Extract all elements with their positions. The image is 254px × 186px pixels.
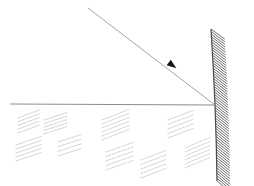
scribble-stroke — [185, 167, 187, 168]
scribble-stroke — [19, 151, 21, 152]
scribble-stroke — [112, 158, 114, 159]
scribble-cluster — [16, 137, 41, 161]
scribble-stroke — [191, 120, 193, 121]
scribble-stroke — [174, 117, 176, 118]
scribble-stroke — [22, 142, 24, 143]
scribble-stroke — [141, 164, 143, 165]
scribble-stroke — [194, 160, 196, 161]
scribble-stroke — [124, 127, 126, 128]
scribble-stroke — [185, 159, 187, 160]
scribble-stroke — [23, 131, 25, 132]
scribble-stroke — [102, 139, 104, 140]
scribble-stroke — [65, 123, 67, 124]
scribble-stroke — [39, 153, 41, 154]
scribble-stroke — [114, 130, 116, 131]
scribble-stroke — [131, 156, 133, 157]
scribble-stroke — [161, 165, 163, 166]
scribble-stroke — [66, 153, 68, 154]
scribble-stroke — [106, 156, 108, 157]
scribble-stroke — [49, 128, 51, 129]
scribble-stroke — [108, 121, 110, 122]
scribble-stroke — [147, 162, 149, 163]
scribble-stroke — [38, 118, 40, 119]
scribble-stroke — [60, 125, 62, 126]
scribble-stroke — [38, 114, 40, 115]
scribble-stroke — [177, 116, 179, 117]
scribble-stroke — [63, 149, 65, 150]
scribble-stroke — [191, 153, 193, 154]
scribble-stroke — [180, 128, 182, 129]
scribble-stroke — [35, 122, 37, 123]
scribble-stroke — [141, 168, 143, 169]
scribble-stroke — [105, 138, 107, 139]
scribble-stroke — [158, 162, 160, 163]
scribble-stroke — [147, 157, 149, 158]
scribble-stroke — [60, 114, 62, 115]
scribble-stroke — [199, 153, 201, 154]
scribble-stroke — [108, 117, 110, 118]
scribble-stroke — [25, 115, 27, 116]
scribble-stroke — [52, 117, 54, 118]
scribble-stroke — [194, 164, 196, 165]
scribble-stroke — [141, 159, 143, 160]
scribble-stroke — [127, 129, 129, 130]
scribble-stroke — [205, 139, 207, 140]
scribble-stroke — [191, 165, 193, 166]
scribble-stroke — [19, 155, 21, 156]
scribble-stroke — [28, 125, 30, 126]
scribble-stroke — [127, 109, 129, 110]
scribble-stroke — [180, 133, 182, 134]
scribble-stroke — [33, 155, 35, 156]
scribble-stroke — [18, 121, 20, 122]
scribble-stroke — [141, 177, 143, 178]
scribble-stroke — [111, 124, 113, 125]
scribble-stroke — [20, 128, 22, 129]
scribble-stroke — [44, 133, 46, 134]
scribble-stroke — [194, 144, 196, 145]
scribble-stroke — [69, 143, 71, 144]
scribble-stroke — [20, 132, 22, 133]
scribble-stroke — [185, 163, 187, 164]
scribble-stroke — [55, 123, 57, 124]
scribble-stroke — [57, 122, 59, 123]
scribble-stroke — [158, 153, 160, 154]
scribble-stroke — [177, 130, 179, 131]
scribble-stroke — [52, 120, 54, 121]
scribble-stroke — [105, 118, 107, 119]
scribble-stroke — [205, 155, 207, 156]
scribble-stroke — [30, 152, 32, 153]
scribble-stroke — [30, 156, 32, 157]
scribble-stroke — [164, 169, 166, 170]
scribble-stroke — [30, 144, 32, 145]
scribble-stroke — [185, 147, 187, 148]
scribble-stroke — [47, 122, 49, 123]
optics-diagram-canvas: Concave mirror ray diagram — [0, 0, 254, 186]
scribble-stroke — [65, 127, 67, 128]
scribble-stroke — [111, 120, 113, 121]
scribble-stroke — [55, 130, 57, 131]
scribble-stroke — [153, 164, 155, 165]
scribble-stroke — [39, 149, 41, 150]
scribble-stroke — [102, 135, 104, 136]
scribble-stroke — [168, 133, 170, 134]
scribble-stroke — [35, 111, 37, 112]
scribble-stroke — [20, 117, 22, 118]
scribble-stroke — [49, 121, 51, 122]
scribble-stroke — [131, 147, 133, 148]
scribble-stroke — [115, 157, 117, 158]
scribble-stroke — [188, 130, 190, 131]
scribble-stroke — [111, 116, 113, 117]
scribble-stroke — [28, 114, 30, 115]
scribble-stroke — [79, 149, 81, 150]
scribble-stroke — [36, 150, 38, 151]
scribble-stroke — [191, 115, 193, 116]
scribble-stroke — [174, 135, 176, 136]
scribble-stroke — [127, 113, 129, 114]
scribble-stroke — [71, 151, 73, 152]
scribble-stroke — [124, 111, 126, 112]
scribble-stroke — [202, 148, 204, 149]
scribble-stroke — [19, 159, 21, 160]
scribble-stroke — [102, 119, 104, 120]
scribble-stroke — [185, 131, 187, 132]
scribble-stroke — [39, 141, 41, 142]
